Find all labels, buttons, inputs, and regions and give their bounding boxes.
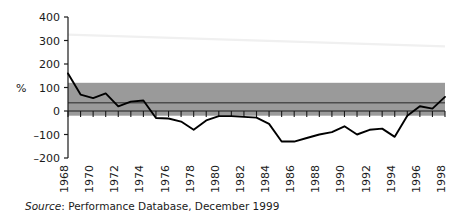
x-tick-label: 1972 bbox=[108, 165, 121, 193]
y-tick-label: –100 bbox=[34, 129, 61, 142]
x-tick-label: 1992 bbox=[360, 165, 373, 193]
x-tick-label: 1990 bbox=[334, 165, 347, 193]
x-tick-label: 1974 bbox=[133, 165, 146, 193]
x-tick-label: 1980 bbox=[209, 165, 222, 193]
y-tick-label: –200 bbox=[34, 152, 61, 165]
x-tick-label: 1976 bbox=[159, 165, 172, 193]
x-tick-label: 1988 bbox=[309, 165, 322, 193]
x-tick-label: 1984 bbox=[259, 165, 272, 193]
y-tick-label: 0 bbox=[53, 105, 60, 118]
y-tick-label: 100 bbox=[39, 82, 60, 95]
source-label: Source bbox=[25, 200, 61, 212]
x-tick-label: 1998 bbox=[435, 165, 448, 193]
y-tick-label: 200 bbox=[39, 58, 60, 71]
y-tick-label: 300 bbox=[39, 35, 60, 48]
line-chart: –200–1000100200300400%196819701972197419… bbox=[0, 0, 468, 222]
x-tick-label: 1996 bbox=[410, 165, 423, 193]
x-tick-label: 1994 bbox=[385, 165, 398, 193]
y-axis-unit-label: % bbox=[16, 82, 26, 95]
source-text: : Performance Database, December 1999 bbox=[61, 200, 279, 212]
chart-figure: –200–1000100200300400%196819701972197419… bbox=[0, 0, 468, 222]
y-tick-label: 400 bbox=[39, 11, 60, 24]
x-tick-label: 1970 bbox=[83, 165, 96, 193]
source-note: Source: Performance Database, December 1… bbox=[25, 200, 279, 212]
x-tick-label: 1986 bbox=[284, 165, 297, 193]
x-tick-label: 1968 bbox=[58, 165, 71, 193]
x-tick-label: 1982 bbox=[234, 165, 247, 193]
faint-guide-line bbox=[68, 35, 445, 47]
x-tick-label: 1978 bbox=[184, 165, 197, 193]
